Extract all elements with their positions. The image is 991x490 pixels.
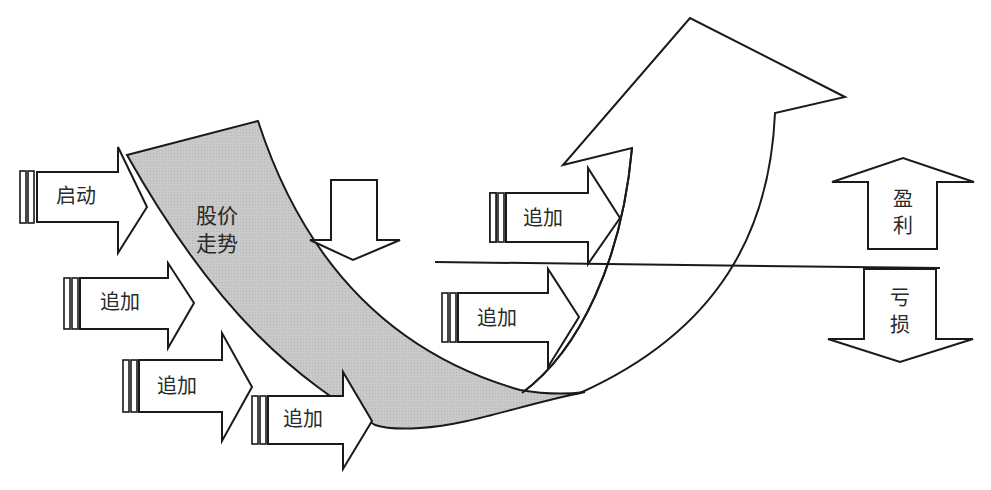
profit-label: 盈利 [891,186,915,240]
stock-trend-label: 股价走势 [196,202,244,258]
diagram-graphics [0,0,991,490]
loss-label: 亏损 [888,285,912,339]
investment-diagram: 启动 追加 追加 追加 追加 追加 股价走势 盈利 亏损 [0,0,991,490]
arrow-add-4-label: 追加 [523,208,563,228]
arrow-start-label: 启动 [56,186,96,206]
arrow-add-5-label: 追加 [477,308,517,328]
arrow-add-1-label: 追加 [100,292,140,312]
arrow-add-2-label: 追加 [157,376,197,396]
down-arrow-mid [310,180,400,260]
arrow-add-3-label: 追加 [283,409,323,429]
